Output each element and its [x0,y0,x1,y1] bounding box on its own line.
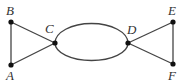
graph-canvas: B A C D E F [0,0,181,81]
node-a [8,62,13,67]
node-d [125,40,130,45]
edge-c-d-upper-arc [55,24,128,44]
label-f: F [167,68,177,81]
label-e: E [167,3,176,18]
edge-d-f [128,43,173,64]
label-b: B [6,3,14,18]
node-b [8,19,13,24]
edge-c-d-lower-arc [55,43,128,61]
graph-diagram: B A C D E F [0,0,181,81]
node-c [52,40,57,45]
label-a: A [5,68,14,81]
edge-a-c [11,43,55,65]
node-e [170,19,175,24]
node-f [170,61,175,66]
label-c: C [45,21,54,36]
label-d: D [126,22,137,37]
